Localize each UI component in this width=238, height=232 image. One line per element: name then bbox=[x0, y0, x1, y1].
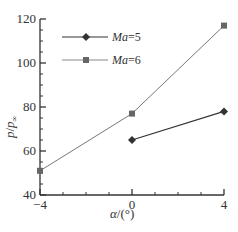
chart: 406080100120−404 Ma=5 Ma=6 α/(°) p/p∞ bbox=[0, 0, 238, 232]
diamond-marker bbox=[220, 107, 228, 115]
legend: Ma=5 Ma=6 bbox=[62, 30, 141, 67]
legend-label-ma6: Ma=6 bbox=[111, 53, 141, 67]
square-marker bbox=[129, 111, 135, 117]
diamond-marker bbox=[128, 136, 136, 144]
x-axis-label: α/(°) bbox=[110, 206, 134, 221]
x-tick-label: −4 bbox=[33, 197, 47, 212]
square-marker bbox=[221, 23, 227, 29]
y-tick-label: 120 bbox=[17, 11, 37, 26]
y-tick-label: 80 bbox=[23, 99, 36, 114]
diamond-icon bbox=[82, 33, 90, 41]
square-icon bbox=[83, 57, 89, 63]
x-tick-label: 4 bbox=[221, 197, 228, 212]
y-axis-label: p/p∞ bbox=[2, 115, 19, 139]
legend-label-ma5: Ma=5 bbox=[111, 30, 141, 44]
y-tick-label: 100 bbox=[17, 55, 37, 70]
series bbox=[37, 23, 228, 174]
y-tick-label: 60 bbox=[23, 143, 36, 158]
square-marker bbox=[37, 168, 43, 174]
series-line bbox=[132, 111, 224, 140]
svg-text:p/p∞: p/p∞ bbox=[2, 115, 19, 139]
series-line bbox=[40, 26, 224, 171]
